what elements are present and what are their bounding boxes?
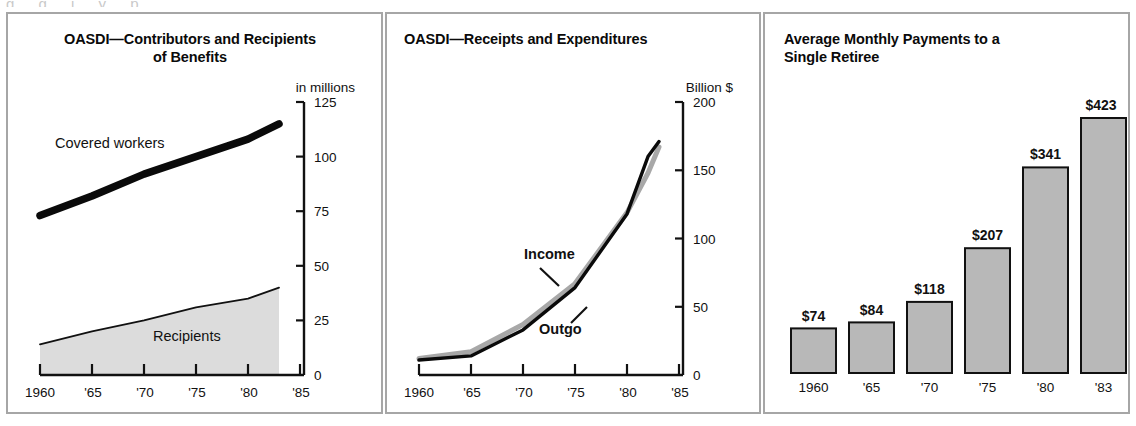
panel-average-monthly-payments: Average Monthly Payments to a Single Ret… (763, 12, 1130, 414)
figure-root: g g j y p OASDI—Contributors and Recipie… (0, 0, 1136, 426)
bar-83 (1081, 118, 1126, 373)
y-tick-label-100: 100 (314, 150, 337, 165)
bar-category-75: '75 (979, 380, 997, 395)
y-tick-label-50: 50 (693, 300, 708, 315)
y-tick-label-75: 75 (314, 204, 329, 219)
y-tick-label-125: 125 (314, 95, 337, 110)
bar-value-1960: $74 (802, 308, 826, 324)
top-text-bleed: g g j y p (0, 0, 1136, 7)
chart-area-payments: $74 1960 $84 '65 $118 '70 $207 '75 $341 … (765, 14, 1128, 412)
x-tick-label-85: '85 (292, 385, 310, 400)
x-tick-label-1960: 1960 (404, 385, 434, 400)
bar-value-75: $207 (972, 227, 1003, 243)
income-leader-line (540, 268, 559, 286)
bar-80 (1023, 167, 1068, 373)
bar-value-80: $341 (1030, 146, 1061, 162)
y-tick-label-100: 100 (693, 232, 716, 247)
panel-oasdi-receipts-expenditures: OASDI—Receipts and Expenditures Billion … (385, 12, 761, 414)
bar-category-65: '65 (863, 380, 881, 395)
series-label-outgo: Outgo (539, 321, 582, 337)
bar-65 (849, 322, 894, 373)
bar-value-83: $423 (1085, 97, 1116, 113)
panel-row: OASDI—Contributors and Recipients of Ben… (6, 12, 1130, 414)
series-label-recipients: Recipients (153, 328, 221, 344)
bar-category-1960: 1960 (798, 380, 828, 395)
series-label-covered-workers: Covered workers (55, 135, 165, 151)
bar-1960 (791, 328, 836, 373)
bar-value-65: $84 (860, 302, 884, 318)
x-tick-label-75: '75 (188, 385, 206, 400)
bar-value-70: $118 (914, 281, 945, 297)
bar-category-83: '83 (1095, 380, 1113, 395)
x-tick-label-70: '70 (136, 385, 154, 400)
y-tick-label-0: 0 (693, 368, 701, 383)
x-tick-label-80: '80 (619, 385, 637, 400)
panel-oasdi-contributors-recipients: OASDI—Contributors and Recipients of Ben… (6, 12, 383, 414)
x-tick-label-85: '85 (671, 385, 689, 400)
y-tick-label-0: 0 (314, 368, 322, 383)
y-tick-label-50: 50 (314, 259, 329, 274)
x-tick-label-75: '75 (567, 385, 585, 400)
chart-area-receipts: 200 150 100 50 0 1960 '65 '70 '75 '80 '8… (387, 14, 759, 412)
x-tick-label-1960: 1960 (25, 385, 55, 400)
x-tick-label-65: '65 (463, 385, 481, 400)
y-tick-label-25: 25 (314, 313, 329, 328)
x-tick-label-80: '80 (240, 385, 258, 400)
y-tick-label-150: 150 (693, 163, 716, 178)
bar-75 (965, 248, 1010, 373)
x-tick-label-65: '65 (84, 385, 102, 400)
bar-70 (907, 302, 952, 373)
chart-area-contributors: 125 100 75 50 25 0 1960 '65 '70 '75 '80 (8, 14, 381, 412)
bar-category-70: '70 (921, 380, 939, 395)
x-tick-label-70: '70 (515, 385, 533, 400)
bar-category-80: '80 (1037, 380, 1055, 395)
y-tick-label-200: 200 (693, 95, 716, 110)
series-label-income: Income (524, 246, 575, 262)
